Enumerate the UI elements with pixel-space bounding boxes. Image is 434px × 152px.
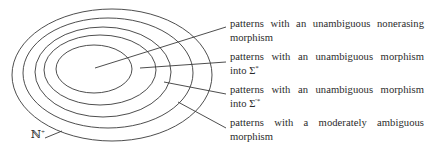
label-line: morphism xyxy=(230,31,424,45)
label-unambiguous-nonerasing: patterns with an unambiguous nonerasing … xyxy=(230,17,424,45)
set-3-ellipse xyxy=(35,27,171,117)
universe-label-sup: + xyxy=(41,128,45,136)
label-unambiguous-sigma-star: patterns with an unambiguous morphism in… xyxy=(230,50,424,78)
label-line: patterns with a moderately ambiguous xyxy=(230,116,424,130)
label-text: morphism xyxy=(230,131,273,142)
label-sup: ′* xyxy=(255,97,260,105)
label-sup: * xyxy=(255,64,259,72)
label-text: morphism xyxy=(230,32,273,43)
label-line: into Σ′* xyxy=(230,97,424,111)
label-moderately-ambiguous: patterns with a moderately ambiguous mor… xyxy=(230,116,424,144)
label-line: morphism xyxy=(230,130,424,144)
label-line: into Σ* xyxy=(230,64,424,78)
leader-line-3 xyxy=(164,82,226,94)
inner-set-ellipse xyxy=(56,45,132,93)
label-line: patterns with an unambiguous morphism xyxy=(230,50,424,64)
label-text: into Σ xyxy=(230,65,255,76)
set-2-ellipse xyxy=(23,18,193,128)
leader-line-1 xyxy=(95,27,226,68)
universe-leader-line xyxy=(45,131,62,138)
leader-line-2 xyxy=(140,62,226,68)
label-line: patterns with an unambiguous morphism xyxy=(230,83,424,97)
leader-line-4 xyxy=(178,102,226,128)
outer-set-ellipse xyxy=(12,9,212,141)
universe-label: ℕ+ xyxy=(31,128,45,141)
universe-label-base: ℕ xyxy=(31,128,41,140)
label-unambiguous-sigma-prime-star: patterns with an unambiguous morphism in… xyxy=(230,83,424,111)
label-line: patterns with an unambiguous nonerasing xyxy=(230,17,424,31)
label-text: into Σ xyxy=(230,98,255,109)
